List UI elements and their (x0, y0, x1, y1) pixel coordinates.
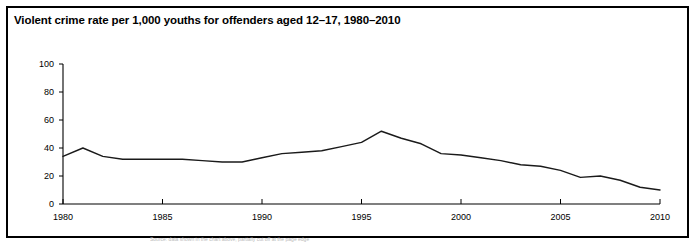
x-tick-label: 1980 (53, 212, 73, 222)
line-chart-svg: 020406080100 198019851990199520002005201… (0, 0, 695, 242)
chart-figure: Violent crime rate per 1,000 youths for … (0, 0, 695, 242)
x-tick-label: 1995 (351, 212, 371, 222)
x-tick-label: 1990 (252, 212, 272, 222)
crime-rate-line-series (63, 131, 660, 190)
y-tick-label: 20 (44, 171, 54, 181)
x-tick-label: 2000 (451, 212, 471, 222)
x-tick-label: 2010 (650, 212, 670, 222)
plot-area: 020406080100 198019851990199520002005201… (0, 0, 695, 242)
y-axis-tick-labels: 020406080100 (39, 59, 54, 209)
y-tick-label: 40 (44, 143, 54, 153)
y-tick-label: 80 (44, 87, 54, 97)
y-tick-label: 60 (44, 115, 54, 125)
y-tick-label: 100 (39, 59, 54, 69)
x-tick-label: 2005 (550, 212, 570, 222)
x-tick-label: 1985 (152, 212, 172, 222)
footnote-text: Source: data shown in the chart above, p… (150, 236, 670, 242)
y-axis-tick-marks (59, 64, 63, 204)
y-tick-label: 0 (49, 199, 54, 209)
x-axis-tick-labels: 1980198519901995200020052010 (53, 212, 670, 222)
x-axis-tick-marks (63, 199, 660, 204)
